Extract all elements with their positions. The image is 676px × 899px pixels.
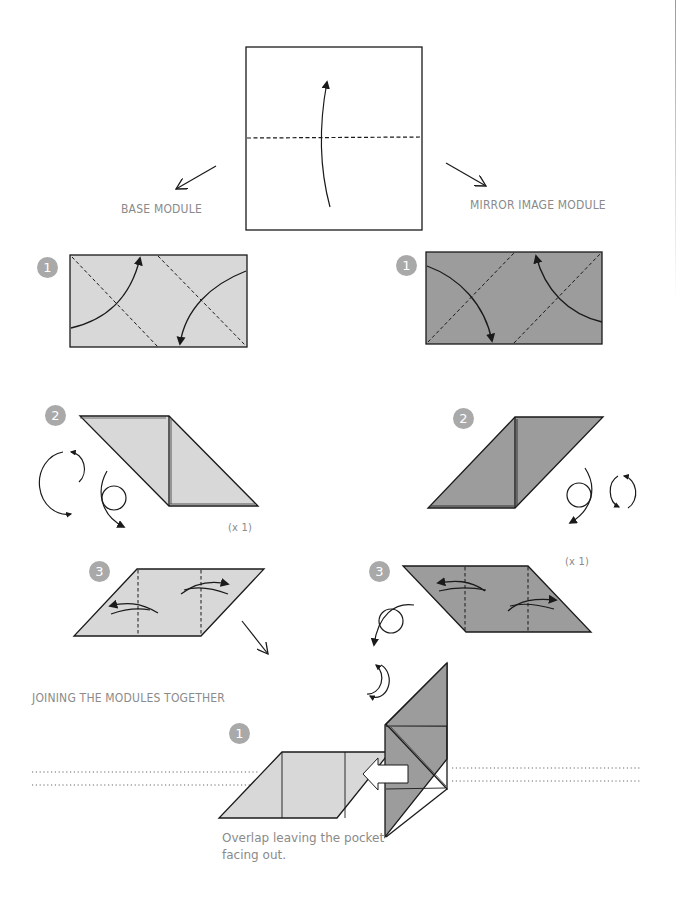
rotate-icon <box>356 663 389 698</box>
base-module-shape <box>219 752 390 818</box>
base-step2-diagram <box>80 416 258 506</box>
direction-arrow-icon <box>242 621 268 654</box>
mirror-step2-diagram <box>428 417 603 508</box>
step-badge-base-2: 2 <box>45 405 66 426</box>
base-step1-diagram <box>70 255 247 347</box>
step-badge-base-1: 1 <box>37 257 58 278</box>
repeat-note-base: (x 1) <box>228 521 252 534</box>
caption-line-1: Overlap leaving the pocket <box>222 830 384 847</box>
base-module-title: BASE MODULE <box>121 202 202 216</box>
joining-caption: Overlap leaving the pocket facing out. <box>222 830 384 864</box>
step-badge-mirror-3: 3 <box>369 561 390 582</box>
mirror-module-title: MIRROR IMAGE MODULE <box>470 198 606 212</box>
step-badge-base-3: 3 <box>89 561 110 582</box>
repeat-note-mirror: (x 1) <box>565 555 589 568</box>
step-badge-joining-1: 1 <box>229 723 250 744</box>
direction-arrow-icon <box>176 166 216 189</box>
step-badge-mirror-2: 2 <box>453 408 474 429</box>
mirror-step3-diagram <box>403 566 591 632</box>
turn-over-icon <box>374 605 414 645</box>
joining-diagram <box>219 663 447 837</box>
origami-diagram <box>0 0 676 899</box>
turn-over-icon <box>567 468 592 523</box>
mirror-step1-diagram <box>426 252 602 344</box>
rotate-icon <box>39 452 84 514</box>
turn-over-icon <box>101 471 126 527</box>
start-square <box>246 47 422 230</box>
joining-title: JOINING THE MODULES TOGETHER <box>32 691 225 705</box>
rotate-icon <box>610 474 636 508</box>
caption-line-2: facing out. <box>222 847 384 864</box>
direction-arrow-icon <box>446 163 486 186</box>
step-badge-mirror-1: 1 <box>396 255 417 276</box>
